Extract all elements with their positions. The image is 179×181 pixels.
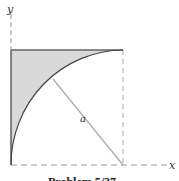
shaded-region	[11, 50, 123, 165]
diagram-figure: y x a Problem 5/37	[0, 0, 179, 181]
radius-label: a	[80, 113, 86, 124]
radius-line	[53, 79, 123, 165]
y-axis-label: y	[6, 3, 14, 16]
x-axis-label: x	[169, 159, 176, 172]
figure-caption: Problem 5/37	[48, 175, 116, 181]
